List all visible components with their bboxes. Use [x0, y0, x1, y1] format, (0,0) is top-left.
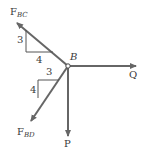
point-b-marker	[66, 64, 70, 68]
slope-bc-run: 4	[36, 55, 42, 65]
free-body-diagram: FBC 3 4 B 3 4 FBD Q P	[0, 0, 147, 149]
label-f-bd: FBD	[17, 127, 35, 139]
label-point-b: B	[70, 52, 77, 62]
force-bc-arrow	[17, 23, 68, 66]
label-p: P	[64, 139, 71, 149]
slope-bc-rise: 3	[17, 35, 23, 45]
slope-bd-run: 3	[46, 67, 52, 77]
label-q: Q	[129, 70, 137, 80]
slope-bd-rise: 4	[30, 85, 36, 95]
label-f-bc: FBC	[10, 7, 28, 19]
